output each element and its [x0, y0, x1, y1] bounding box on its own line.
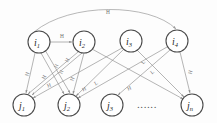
edge-label-i4-jn: H	[187, 69, 194, 74]
node-i4[interactable]: i4	[166, 30, 188, 52]
edge-i2-j1-a	[28, 52, 78, 94]
node-j3[interactable]: j3	[101, 94, 123, 116]
edge-label-i2-j2: H	[69, 76, 76, 82]
node-layer-top: i1 i2 i3 i4	[28, 30, 188, 53]
graph-figure: H H H H H H H H L H H L H L H i1 i2	[0, 0, 217, 123]
ellipsis-label: ......	[137, 98, 157, 110]
edge-layer-cross	[26, 47, 190, 99]
edge-label-i1-j2-a: H	[40, 74, 47, 80]
edge-label-i3-jn: L	[149, 69, 155, 76]
edge-i3-jn	[137, 50, 184, 97]
edge-label-i2-jn: L	[93, 80, 99, 87]
edge-label-i1-j2-b: H	[46, 81, 52, 88]
node-i3[interactable]: i3	[120, 30, 142, 52]
edge-label-i3-j1: H	[81, 85, 87, 92]
edge-label-i3-j2: H	[63, 57, 70, 63]
node-jn[interactable]: jn	[181, 94, 203, 116]
edge-label-i1-i2-h: H	[60, 33, 64, 39]
edge-label-i2-j1-b: H	[57, 69, 64, 75]
node-j2[interactable]: j2	[58, 94, 80, 116]
edge-i2-jn	[92, 49, 183, 99]
node-i2[interactable]: i2	[73, 31, 95, 53]
edge-label-i4-j2: H	[126, 84, 132, 91]
node-i1[interactable]: i1	[28, 31, 50, 53]
edge-i3-j1	[33, 48, 122, 98]
edge-i1-i4-arc	[34, 9, 176, 32]
node-layer-bottom: j1 j2 j3 jn	[13, 94, 203, 116]
node-j1[interactable]: j1	[13, 94, 35, 116]
edge-label-i1-j1: H	[24, 71, 31, 77]
edge-label-layer: H H H H H H H H L H H L H L H	[24, 9, 194, 93]
edge-label-arc-h: H	[106, 9, 110, 15]
edge-layer-arcs	[34, 9, 176, 32]
edge-label-i4-j3: L	[140, 59, 147, 65]
graph-canvas: H H H H H H H H L H H L H L H i1 i2	[0, 0, 217, 123]
